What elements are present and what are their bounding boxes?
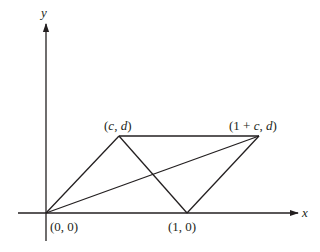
x-axis-label: x (301, 205, 308, 220)
label-one-plus-c-d: (1 + c, d) (229, 118, 277, 133)
segment-origin-to-c-d (46, 136, 119, 213)
label-c-d: (c, d) (104, 118, 131, 133)
parallelogram-diagram: y x (c, d) (1 + c, d) (0, 0) (1, 0) (0, 0, 320, 252)
diagonal-origin-to-one-plus-c-d (46, 136, 259, 213)
label-origin: (0, 0) (50, 219, 78, 234)
segment-one-zero-to-one-plus-c-d (187, 136, 259, 213)
y-axis-label: y (39, 5, 47, 20)
label-one-zero: (1, 0) (168, 219, 196, 234)
